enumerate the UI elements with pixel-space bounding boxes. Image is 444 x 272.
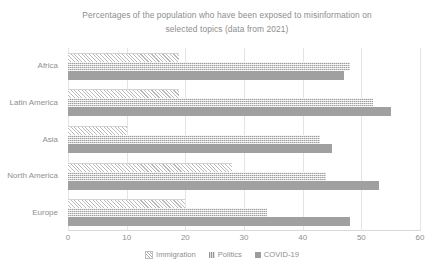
x-tick-label-30: 30 <box>240 233 249 242</box>
legend-item-politics[interactable]: Politics <box>209 250 242 259</box>
chart-title: Percentages of the population who have b… <box>52 8 402 36</box>
chart-legend: ImmigrationPoliticsCOVID-19 <box>0 250 444 259</box>
bar-group <box>68 121 420 158</box>
legend-label: Immigration <box>156 250 196 259</box>
x-tick-label-0: 0 <box>66 233 70 242</box>
bar <box>68 144 332 153</box>
y-tick-label-latin-america: Latin America <box>10 98 58 107</box>
x-tick-label-40: 40 <box>298 233 307 242</box>
x-tick-label-60: 60 <box>416 233 425 242</box>
y-tick-label-north-america: North America <box>7 171 58 180</box>
y-tick-label-africa: Africa <box>38 61 58 70</box>
legend-item-immigration[interactable]: Immigration <box>145 250 196 259</box>
bar-group <box>68 85 420 122</box>
legend-label: Politics <box>218 250 242 259</box>
bar <box>68 208 267 217</box>
legend-item-covid-19[interactable]: COVID-19 <box>255 250 299 259</box>
bar-chart: Percentages of the population who have b… <box>0 0 444 272</box>
chart-title-line-1: Percentages of the population who have b… <box>52 8 402 22</box>
x-tick-label-50: 50 <box>357 233 366 242</box>
plot-area <box>68 48 420 231</box>
legend-swatch-icon <box>145 251 153 259</box>
bar <box>68 62 350 71</box>
bar <box>68 217 350 226</box>
bar <box>68 135 320 144</box>
x-axis-tick-labels: 0102030405060 <box>68 233 420 247</box>
bar <box>68 172 326 181</box>
legend-label: COVID-19 <box>264 250 299 259</box>
y-tick-label-asia: Asia <box>42 135 58 144</box>
chart-title-line-2: selected topics (data from 2021) <box>52 22 402 36</box>
bar-group <box>68 158 420 195</box>
bar <box>68 98 373 107</box>
x-tick-label-20: 20 <box>181 233 190 242</box>
bar <box>68 71 344 80</box>
legend-swatch-icon <box>209 252 215 258</box>
legend-swatch-icon <box>255 252 261 258</box>
bar-group <box>68 194 420 231</box>
y-tick-label-europe: Europe <box>32 208 58 217</box>
y-axis-category-labels: AfricaLatin AmericaAsiaNorth AmericaEuro… <box>0 48 63 231</box>
bar-group <box>68 48 420 85</box>
bar <box>68 107 391 116</box>
gridline-x-60 <box>420 48 421 231</box>
x-tick-label-10: 10 <box>122 233 131 242</box>
bar <box>68 181 379 190</box>
